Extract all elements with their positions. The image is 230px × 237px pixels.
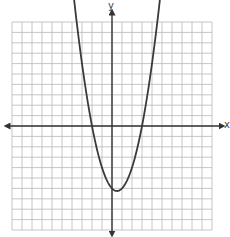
parabola-curve xyxy=(71,0,162,191)
coordinate-graph xyxy=(0,0,230,237)
y-axis-label: y xyxy=(108,1,114,11)
x-axis-label: x xyxy=(224,120,230,130)
axes xyxy=(7,12,222,234)
